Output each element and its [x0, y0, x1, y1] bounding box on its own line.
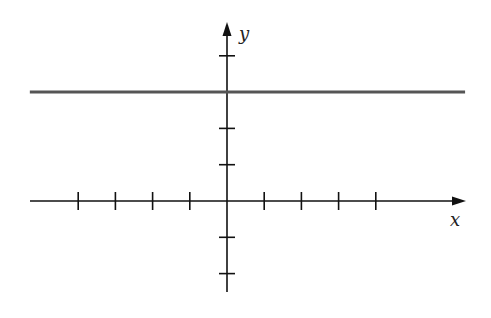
x-axis-label: x — [450, 209, 460, 230]
y-axis-arrow-icon — [223, 22, 232, 36]
y-axis-label: y — [238, 23, 250, 44]
axes — [30, 22, 466, 292]
x-axis-arrow-icon — [452, 197, 466, 206]
coordinate-plane: x y — [0, 0, 491, 318]
